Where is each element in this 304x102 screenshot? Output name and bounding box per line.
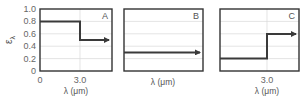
svg-text:ελ: ελ — [3, 36, 16, 44]
panel-c-x-tick-3: 3.0 — [261, 75, 274, 85]
y-tick-0.2: 0.2 — [23, 54, 36, 64]
panel-b-x-axis-label: λ (μm) — [151, 77, 175, 87]
panel-c-label: C — [289, 11, 296, 21]
y-tick-0.4: 0.4 — [23, 41, 36, 51]
panel-a-x-axis-label: λ (μm) — [64, 86, 88, 96]
panel-c-x-axis-label: λ (μm) — [255, 86, 279, 96]
y-tick-0: 0 — [31, 66, 36, 76]
panel-c-frame — [220, 9, 299, 71]
panel-c-grid — [220, 9, 299, 71]
panel-b-label: B — [193, 11, 199, 21]
panel-c: C 3.0 λ (μm) — [220, 9, 299, 96]
panel-a-x-tick-0: 0 — [37, 75, 42, 85]
panel-a-x-tick-3: 3.0 — [74, 75, 87, 85]
panel-a-emissivity-line — [40, 21, 109, 40]
y-tick-0.8: 0.8 — [23, 16, 36, 26]
panel-b-frame — [124, 9, 203, 71]
panel-b: B λ (μm) — [124, 9, 203, 87]
panel-a-label: A — [102, 11, 108, 21]
y-tick-0.6: 0.6 — [23, 29, 36, 39]
y-axis-label: ελ — [3, 36, 16, 44]
y-tick-1.0: 1.0 — [23, 4, 36, 14]
panel-a: A 1.0 0.8 0.6 0.4 0.2 0 ελ 0 3.0 λ (μm) — [3, 4, 112, 96]
emissivity-charts: A 1.0 0.8 0.6 0.4 0.2 0 ελ 0 3.0 λ (μm) … — [0, 0, 304, 102]
